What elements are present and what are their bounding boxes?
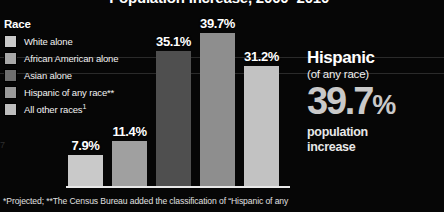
- bar-white-alone: [68, 155, 103, 186]
- bar-group-hispanic-any-race: 39.7%: [200, 31, 235, 186]
- bar-asian-alone: [156, 51, 191, 186]
- bar-value-label: 39.7%: [200, 16, 235, 31]
- footnote-text: *Projected; **The Census Bureau added th…: [3, 196, 288, 206]
- bar-hispanic-any-race: [200, 33, 235, 186]
- legend-swatch-icon: [4, 35, 17, 48]
- legend-swatch-icon: [4, 69, 17, 82]
- bar-group-asian-alone: 35.1%: [156, 49, 191, 186]
- bar-value-label: 35.1%: [156, 34, 191, 49]
- clipped-axis-label: 7: [0, 140, 5, 150]
- bar-chart-plot-area: 7.9% 11.4% 35.1% 39.7% 31.2%: [55, 16, 300, 188]
- callout-footer-line-2: increase: [307, 140, 441, 155]
- bar-value-label: 11.4%: [112, 124, 146, 139]
- callout-value-number: 39.7: [307, 80, 372, 122]
- callout-footer-line-1: population: [307, 125, 441, 140]
- legend-swatch-icon: [4, 86, 17, 99]
- hispanic-callout-panel: Hispanic (of any race) 39.7% population …: [307, 48, 441, 154]
- chart-baseline-axis: [66, 186, 290, 188]
- bar-group-white-alone: 7.9%: [68, 153, 103, 186]
- legend-swatch-icon: [4, 52, 17, 65]
- legend-swatch-icon: [4, 103, 17, 116]
- bar-group-african-american-alone: 11.4%: [112, 139, 147, 186]
- callout-subheading: (of any race): [307, 67, 441, 81]
- infographic-population-increase: Population Increase, 2000–2010* Race Whi…: [0, 0, 444, 212]
- bar-all-other-races: [244, 66, 279, 186]
- page-title: Population Increase, 2000–2010*: [0, 0, 444, 6]
- callout-big-value: 39.7%: [307, 82, 441, 124]
- bar-african-american-alone: [112, 141, 147, 186]
- bar-value-label: 31.2%: [244, 49, 279, 64]
- bar-value-label: 7.9%: [71, 138, 99, 153]
- callout-footer: population increase: [307, 125, 441, 154]
- callout-percent-symbol: %: [372, 90, 395, 120]
- callout-heading: Hispanic: [307, 48, 441, 67]
- bar-group-all-other-races: 31.2%: [244, 64, 279, 186]
